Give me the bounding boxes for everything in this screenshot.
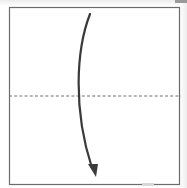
scan-mark bbox=[142, 183, 154, 186]
origami-fold-diagram: Valley fold in half, top to bottom bbox=[0, 0, 187, 188]
diagram-canvas bbox=[0, 0, 187, 188]
